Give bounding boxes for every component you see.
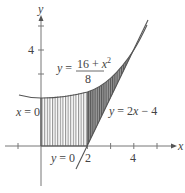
x-tick-label-2: 2 [85,151,91,165]
parabola-label: y = 16 + x2 8 [56,56,111,86]
y-tick-label-4: 4 [28,43,34,57]
parabola-numerator: 16 + x2 [77,56,111,71]
line-label: y = 2x − 4 [108,104,157,118]
x-tick-label-4: 4 [130,151,136,165]
y-axis-label: y [37,2,44,16]
diagram-canvas: x y 2 4 4 y = 16 + x2 8 y = 2x − 4 x = 0… [0,0,185,193]
parabola-denominator: 8 [85,72,91,86]
x-axis-label: x [177,139,184,153]
shaded-region-left [41,92,87,146]
region-diagram: x y 2 4 4 y = 16 + x2 8 y = 2x − 4 x = 0… [0,0,185,193]
x-axis-arrow-icon [171,144,177,149]
x-equals-0-label: x = 0 [15,105,40,119]
svg-text:y =: y = [56,61,72,75]
y-equals-0-label: y = 0 [50,151,75,165]
